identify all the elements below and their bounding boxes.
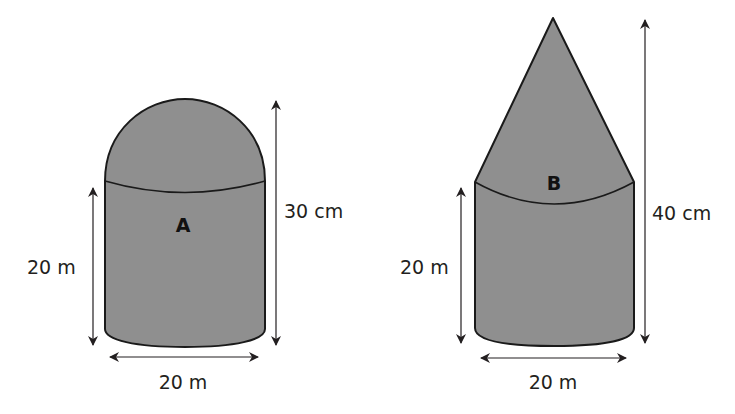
shape-b-label: B xyxy=(547,172,561,194)
shape-b: B 20 m 40 cm 20 m xyxy=(400,18,711,393)
shape-a: A 20 m 30 cm 20 m xyxy=(27,99,343,393)
shape-a-width-label: 20 m xyxy=(159,371,208,393)
shape-b-total-height-label: 40 cm xyxy=(652,202,711,224)
shape-a-cylinder-height-label: 20 m xyxy=(27,256,76,278)
shape-a-label: A xyxy=(176,214,191,236)
shape-b-cylinder-height-label: 20 m xyxy=(400,256,449,278)
diagram-canvas: A 20 m 30 cm 20 m B 20 m 40 cm 20 m xyxy=(0,0,735,414)
shape-a-total-height-label: 30 cm xyxy=(284,200,343,222)
shape-b-width-label: 20 m xyxy=(529,371,578,393)
